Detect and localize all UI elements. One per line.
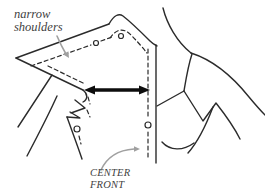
- dashed-underarm-marks: [87, 97, 90, 117]
- underarm-line: [184, 91, 240, 139]
- neck-notch-circle: [119, 34, 124, 39]
- callout-arrowhead-icon: [134, 146, 140, 152]
- narrow-shoulders-label-line2: shoulders: [14, 21, 63, 34]
- narrow-shoulders-label: narrow shoulders: [14, 8, 63, 34]
- center-front-label-line1: CENTER: [90, 167, 130, 179]
- chest-link-line: [157, 91, 184, 106]
- center-front-notch-circle: [145, 122, 151, 128]
- underarm-slash-marks: [67, 90, 87, 118]
- dashed-armhole-line: [48, 66, 85, 84]
- left-inner-arm-line: [27, 96, 57, 156]
- armhole-notch-circle: [74, 126, 80, 132]
- neckline-edge: [109, 15, 157, 46]
- neck-line: [163, 8, 191, 53]
- pattern-dashed-alteration-lines: [31, 30, 148, 158]
- left-outer-arm-line: [18, 75, 52, 127]
- chest-curve: [162, 142, 194, 149]
- dashed-side-seam-mark: [79, 136, 81, 144]
- shoulder-arm-line: [191, 53, 265, 115]
- center-front-label: CENTER FRONT: [90, 167, 130, 190]
- shoulder-width-double-arrow: [84, 86, 150, 95]
- inner-arm-line: [188, 107, 213, 153]
- body-side-line: [184, 54, 192, 91]
- shoulder-notch-circle: [94, 41, 99, 46]
- dashed-shoulder-seamline: [31, 37, 112, 66]
- center-front-label-line2: FRONT: [90, 179, 130, 191]
- armhole-edge: [16, 58, 83, 90]
- notch-circles: [74, 34, 151, 133]
- diagram-canvas: narrow shoulders CENTER FRONT: [0, 0, 265, 196]
